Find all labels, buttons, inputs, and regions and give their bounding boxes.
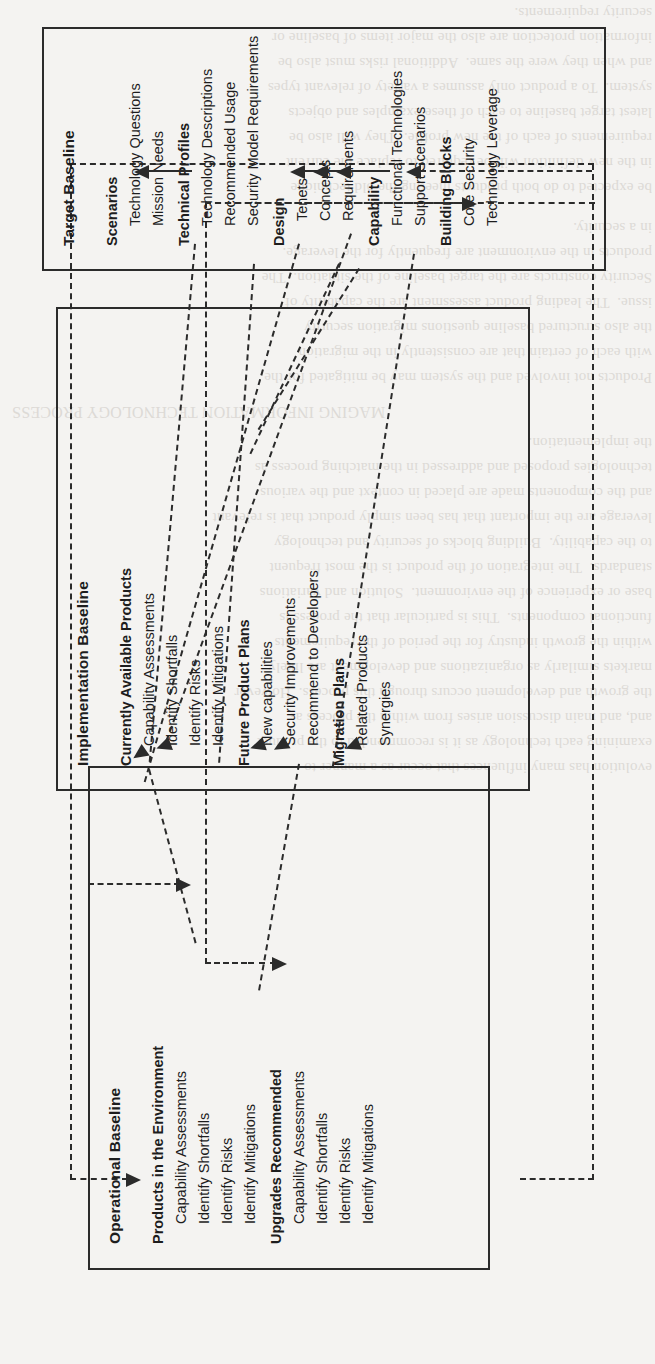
target-riser-support-scenarios-head <box>406 165 421 179</box>
operational-item-identify-shortfalls: Identify Shortfalls <box>196 1113 212 1224</box>
operational-item-identify-risks: Identify Risks <box>219 1138 235 1224</box>
operational-group-products-label: Products in the Environment <box>150 1046 166 1244</box>
arrow-upgrades-head <box>272 957 287 971</box>
target-riser-tenets-head <box>290 165 305 179</box>
operational-baseline-title: Operational Baseline <box>106 1088 124 1244</box>
impl-riser-shortfalls <box>88 883 180 885</box>
implementation-item-security-improvements: Security Improvements <box>282 598 298 746</box>
operational-item-capability-assessments: Capability Assessments <box>173 1071 189 1224</box>
operational-item-identify-risks-2: Identify Risks <box>337 1138 353 1224</box>
operational-item-identify-mitigations: Identify Mitigations <box>242 1104 258 1224</box>
target-group-technical-profiles-label: Technical Profiles <box>176 123 192 246</box>
implementation-item-synergies: Synergies <box>377 682 393 746</box>
implementation-baseline-title: Implementation Baseline <box>74 581 92 766</box>
target-riser-concepts-head <box>313 165 328 179</box>
implementation-item-new-capabilities: New capabilities <box>259 641 275 746</box>
target-item-mission-needs: Mission Needs <box>150 131 166 226</box>
operational-item-identify-mitigations-2: Identify Mitigations <box>360 1104 376 1224</box>
implementation-item-capability-assessments: Capability Assessments <box>141 593 157 746</box>
implementation-group-current-label: Currently Available Products <box>118 568 134 766</box>
target-item-tenets: Tenets <box>294 178 310 221</box>
target-group-capability-label: Capability <box>366 177 382 246</box>
implementation-item-related-products: Related Products <box>354 635 370 746</box>
scanned-figure-page: be expected to do both products meeting … <box>0 0 655 1364</box>
target-riser-mission-needs-head <box>134 165 149 179</box>
target-riser-mission-needs <box>148 170 192 172</box>
target-group-building-blocks-label: Building Blocks <box>438 136 454 246</box>
target-item-technology-leverage: Technology Leverage <box>484 88 500 226</box>
diagram-stage: Operational Baseline Products in the Env… <box>0 0 655 1364</box>
implementation-item-recommend-developers: Recommend to Developers <box>305 570 321 746</box>
target-item-technology-questions: Technology Questions <box>127 83 143 226</box>
target-baseline-title: Target Baseline <box>60 130 78 246</box>
operational-group-upgrades-label: Upgrades Recommended <box>268 1069 284 1244</box>
feedback-loop-left-up <box>520 1178 594 1180</box>
target-riser-requirements-head <box>336 165 351 179</box>
target-riser-support-scenarios <box>420 170 592 172</box>
feedback-loop-bottom <box>592 164 594 1180</box>
target-item-core-security: Core Security <box>461 138 477 226</box>
target-group-scenarios-label: Scenarios <box>104 177 120 246</box>
target-riser-requirements <box>350 170 390 172</box>
target-item-recommended-usage: Recommended Usage <box>222 82 238 226</box>
target-group-design-label: Design <box>271 198 287 246</box>
operational-baseline-box <box>88 766 490 1270</box>
target-riser-core-security-head <box>462 197 477 211</box>
operational-item-identify-shortfalls-2: Identify Shortfalls <box>314 1113 330 1224</box>
target-riser-core-security <box>205 202 469 204</box>
operational-item-capability-assessments-2: Capability Assessments <box>291 1071 307 1224</box>
target-item-security-model-requirements: Security Model Requirements <box>245 36 261 226</box>
